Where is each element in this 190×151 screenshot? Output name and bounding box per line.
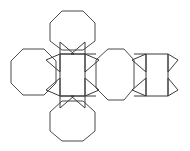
- polyhedron-net-figure: [0, 0, 190, 151]
